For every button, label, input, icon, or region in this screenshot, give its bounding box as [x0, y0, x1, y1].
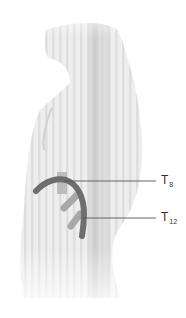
label-t8-sub: 8 [169, 181, 173, 188]
label-t12-main: T [161, 210, 168, 224]
label-t12: T12 [161, 211, 177, 223]
label-t8-main: T [161, 173, 168, 187]
label-t12-sub: 12 [169, 218, 177, 225]
label-t8: T8 [161, 174, 173, 186]
anatomy-illustration [0, 0, 186, 318]
